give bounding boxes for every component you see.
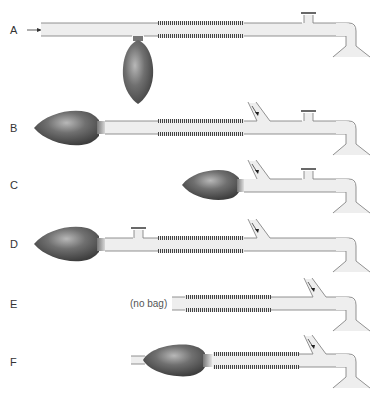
system-e: E (no bag) bbox=[10, 278, 370, 331]
no-bag-note: (no bag) bbox=[130, 298, 167, 309]
face-mask-icon bbox=[332, 144, 370, 155]
label-a: A bbox=[10, 24, 18, 36]
apl-valve-icon bbox=[301, 111, 349, 122]
system-b: B bbox=[10, 102, 370, 155]
reservoir-bag-icon bbox=[143, 345, 205, 377]
apl-valve-icon bbox=[301, 13, 349, 24]
corrugated-tube bbox=[185, 295, 271, 299]
apl-valve-icon bbox=[301, 169, 349, 180]
label-b: B bbox=[10, 122, 17, 134]
face-mask-icon bbox=[332, 46, 370, 57]
mapleson-diagram: A bbox=[0, 0, 383, 396]
reservoir-bag-icon bbox=[182, 170, 239, 200]
corrugated-tube bbox=[158, 21, 244, 25]
label-c: C bbox=[10, 179, 18, 191]
face-mask-icon bbox=[332, 377, 370, 388]
fresh-gas-inlet-icon bbox=[248, 219, 270, 238]
system-f: F bbox=[10, 335, 370, 388]
reservoir-bag-icon bbox=[34, 111, 99, 145]
system-c: C bbox=[10, 160, 370, 213]
label-e: E bbox=[10, 298, 17, 310]
fresh-gas-inlet-icon bbox=[304, 278, 326, 297]
system-d: D bbox=[10, 219, 370, 272]
fresh-gas-inlet-icon bbox=[248, 160, 270, 179]
fresh-gas-arrow-icon bbox=[27, 28, 42, 32]
reservoir-bag-icon bbox=[34, 227, 99, 261]
corrugated-tube bbox=[158, 236, 244, 240]
label-d: D bbox=[10, 238, 18, 250]
face-mask-icon bbox=[332, 202, 370, 213]
apl-valve-icon bbox=[131, 228, 158, 239]
corrugated-tube bbox=[213, 352, 299, 356]
reservoir-bag-icon bbox=[123, 36, 153, 104]
system-a: A bbox=[10, 13, 370, 104]
corrugated-tube bbox=[158, 119, 244, 123]
label-f: F bbox=[10, 356, 17, 368]
fresh-gas-inlet-icon bbox=[248, 102, 270, 121]
fresh-gas-inlet-icon bbox=[304, 335, 326, 354]
face-mask-icon bbox=[332, 320, 370, 331]
face-mask-icon bbox=[332, 261, 370, 272]
